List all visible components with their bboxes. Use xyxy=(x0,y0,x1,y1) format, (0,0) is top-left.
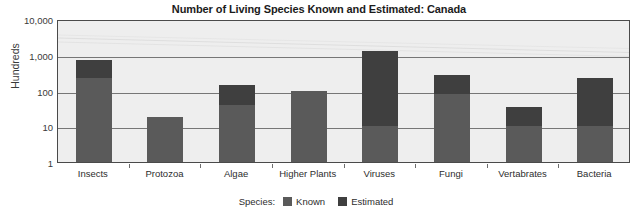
y-axis-tick-label: 10,000 xyxy=(3,15,53,26)
legend-swatch xyxy=(283,197,292,206)
legend-item-estimated: Estimated xyxy=(338,196,393,207)
bar-segment-estimated xyxy=(219,85,255,104)
legend-label: Estimated xyxy=(351,196,393,207)
x-axis-tick-labels: InsectsProtozoaAlgaeHigher PlantsViruses… xyxy=(57,168,630,184)
bar-algae xyxy=(219,85,255,162)
bar-segment-estimated xyxy=(577,78,613,126)
x-axis-tick-label: Viruses xyxy=(364,168,396,179)
bar-bacteria xyxy=(577,78,613,162)
gridline xyxy=(58,128,629,129)
chart-title: Number of Living Species Known and Estim… xyxy=(0,3,638,15)
x-axis-tick-label: Protozoa xyxy=(145,168,183,179)
x-axis-tick-label: Fungi xyxy=(439,168,463,179)
x-axis-tick-label: Higher Plants xyxy=(279,168,336,179)
bar-segment-known xyxy=(76,78,112,162)
legend-swatch xyxy=(338,197,347,206)
bar-segment-estimated xyxy=(506,107,542,126)
legend-title: Species: xyxy=(239,196,275,207)
x-axis-tick-label: Algae xyxy=(224,168,248,179)
scan-artifact-streak xyxy=(57,34,630,50)
y-axis-tick-labels: 10,0001,000100101 xyxy=(0,0,53,215)
bar-vertabrates xyxy=(506,107,542,162)
bar-insects xyxy=(76,60,112,162)
bar-higher-plants xyxy=(291,91,327,162)
x-axis-tick-label: Bacteria xyxy=(577,168,612,179)
x-axis-tick-label: Vertabrates xyxy=(498,168,547,179)
bar-segment-known xyxy=(219,105,255,162)
bar-segment-known xyxy=(291,91,327,162)
bar-protozoa xyxy=(147,117,183,162)
y-axis-tick-label: 1,000 xyxy=(3,50,53,61)
y-axis-tick-label: 10 xyxy=(3,122,53,133)
bar-segment-estimated xyxy=(434,75,470,94)
legend-item-known: Known xyxy=(283,196,325,207)
y-axis-tick-label: 100 xyxy=(3,86,53,97)
chart-legend: Species: KnownEstimated xyxy=(0,196,638,207)
y-axis-tick-label: 1 xyxy=(3,158,53,169)
bar-segment-estimated xyxy=(362,51,398,127)
legend-label: Known xyxy=(296,196,325,207)
bar-segment-known xyxy=(147,117,183,162)
bar-viruses xyxy=(362,51,398,162)
gridline xyxy=(58,93,629,94)
x-axis-tick-label: Insects xyxy=(78,168,108,179)
bar-segment-known xyxy=(434,94,470,162)
bar-segment-known xyxy=(506,126,542,162)
bar-fungi xyxy=(434,75,470,162)
bar-segment-estimated xyxy=(76,60,112,78)
plot-area xyxy=(57,20,630,163)
bar-segment-known xyxy=(362,126,398,162)
gridline xyxy=(58,57,629,58)
bar-segment-known xyxy=(577,126,613,162)
chart-container: Number of Living Species Known and Estim… xyxy=(0,0,638,215)
